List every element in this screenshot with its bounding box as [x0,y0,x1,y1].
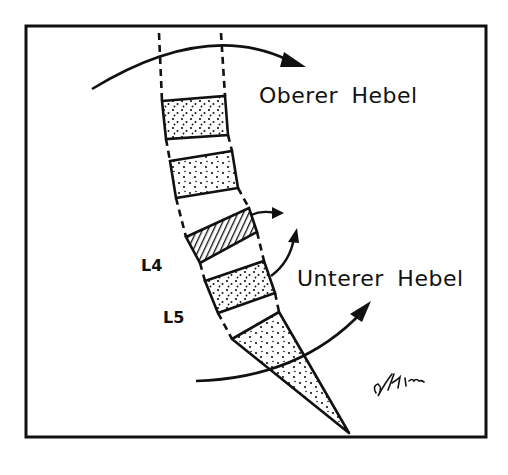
lower-lever-label: Unterer Hebel [297,268,464,290]
spine-lever-diagram: Oberer Hebel Unterer Hebel L4 L5 [0,0,508,475]
vertebra-1 [162,96,228,139]
small-curved-arrowhead-icon [288,228,299,243]
hatched-vertebra-arrow [251,207,284,219]
diagram-canvas [0,0,508,475]
lower-lever-arrowhead-icon [350,301,371,322]
l4-rotation-arrow [271,228,299,276]
small-arrowhead-icon [272,207,284,219]
upper-lever-label: Oberer Hebel [259,85,418,107]
vertebra-2 [170,151,238,198]
sacrum [232,312,349,433]
vertebra-4 [205,261,275,313]
vertebra-l5-label: L5 [163,310,184,326]
signature [374,374,424,396]
upper-lever-arrowhead-icon [280,52,306,67]
vertebra-l4-label: L4 [141,258,162,274]
vertebra-3-hatched [186,208,257,263]
